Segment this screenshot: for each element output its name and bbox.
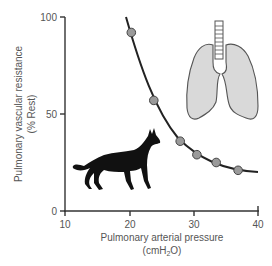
y-tick-100: 100	[40, 12, 57, 23]
x-axis-unit: (cmH2O)	[143, 245, 182, 257]
x-axis-title: Pulmonary arterial pressure	[101, 232, 224, 243]
x-tick-30: 30	[188, 219, 200, 230]
y-axis-title: Pulmonary vascular resistance	[13, 45, 24, 182]
y-tick-0: 0	[51, 206, 57, 217]
dog-icon	[73, 128, 160, 190]
chart: 100 50 0 10 20 30 40 Pulmonary arterial …	[0, 0, 272, 266]
data-point	[127, 28, 136, 37]
x-tick-40: 40	[252, 219, 264, 230]
x-tick-10: 10	[59, 219, 71, 230]
data-point	[212, 158, 221, 167]
y-axis-unit: (% Rest)	[26, 95, 37, 134]
x-tick-20: 20	[124, 219, 136, 230]
y-tick-50: 50	[46, 109, 58, 120]
data-point	[193, 150, 202, 159]
data-point	[234, 166, 243, 175]
lungs-icon	[187, 21, 258, 119]
data-point	[150, 96, 159, 105]
data-point	[176, 137, 185, 146]
